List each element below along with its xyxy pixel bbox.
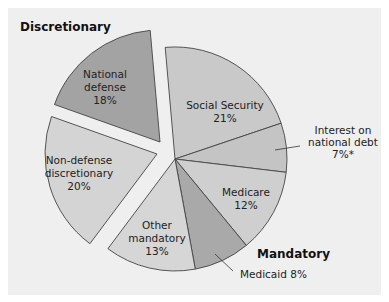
social-security-value: 21%: [213, 112, 236, 124]
other-mandatory-label-2: mandatory: [128, 232, 186, 244]
other-mandatory-label-1: Other: [142, 219, 172, 231]
medicare-label: Medicare: [222, 186, 270, 198]
social-security-label: Social Security: [186, 99, 264, 111]
national-defense-value: 18%: [93, 94, 116, 106]
interest-label-1: Interest on: [315, 124, 372, 136]
national-defense-label-2: defense: [84, 81, 126, 93]
national-defense-label-1: National: [83, 68, 127, 80]
medicaid-label: Medicaid 8%: [240, 268, 307, 280]
medicare-value: 12%: [234, 199, 257, 211]
non-defense-label-1: Non-defense: [46, 154, 113, 166]
non-defense-label-2: discretionary: [45, 167, 113, 179]
discretionary-title: Discretionary: [20, 20, 111, 34]
interest-label-2: national debt: [308, 136, 378, 148]
pie-chart: Discretionary Mandatory National defense…: [0, 0, 389, 302]
interest-value: 7%*: [332, 148, 354, 160]
mandatory-title: Mandatory: [257, 247, 330, 261]
other-mandatory-value: 13%: [145, 245, 168, 257]
non-defense-value: 20%: [67, 180, 90, 192]
